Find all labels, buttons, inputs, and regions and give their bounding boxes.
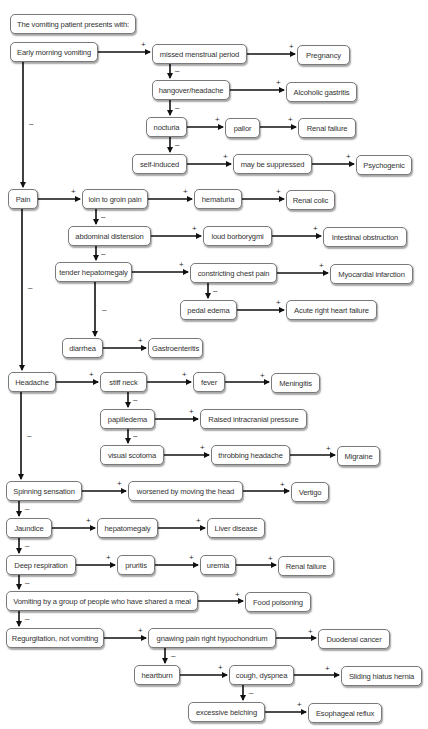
- node-cough-dyspnea: cough, dyspnea: [229, 665, 294, 685]
- node-missed-menstrual-period: missed menstrual period: [152, 44, 247, 64]
- plus-sign: +: [319, 262, 324, 270]
- vomiting-flowchart: The vomiting patient presents with: Earl…: [0, 0, 428, 729]
- plus-sign: +: [276, 79, 281, 87]
- minus-sign: –: [102, 306, 106, 314]
- node-vertigo: Vertigo: [291, 482, 329, 502]
- node-uremia: uremia: [200, 555, 236, 575]
- node-renal-colic: Renal colic: [286, 190, 335, 210]
- plus-sign: +: [179, 261, 184, 269]
- minus-sign: –: [133, 396, 137, 404]
- node-group-vomiting: Vomiting by a group of people who have s…: [6, 591, 198, 611]
- node-tender-hepatomegaly: tender hepatomegaly: [55, 262, 132, 282]
- node-intestinal-obstruction: Intestinal obstruction: [323, 227, 407, 247]
- plus-sign: +: [89, 371, 94, 379]
- node-spinning-sensation: Spinning sensation: [6, 481, 82, 501]
- node-hematuria: hematuria: [194, 189, 242, 209]
- node-psychogenic: Psychogenic: [356, 155, 412, 175]
- node-raised-intracranial-pressure: Raised intracranial pressure: [200, 409, 307, 429]
- node-renal-failure-1: Renal failure: [298, 118, 356, 138]
- node-self-induced: self-induced: [132, 154, 187, 174]
- node-loin-to-groin-pain: loin to groin pain: [82, 189, 148, 209]
- minus-sign: –: [25, 542, 29, 550]
- plus-sign: +: [223, 153, 228, 161]
- minus-sign: –: [175, 141, 179, 149]
- node-early-morning-vomiting: Early morning vomiting: [10, 42, 98, 62]
- minus-sign: –: [25, 579, 29, 587]
- plus-sign: +: [189, 554, 194, 562]
- minus-sign: –: [175, 104, 179, 112]
- node-gnawing-pain: gnawing pain right hypochondrium: [148, 628, 276, 648]
- node-headache: Headache: [8, 372, 56, 392]
- minus-sign: –: [101, 213, 105, 221]
- plus-sign: +: [182, 371, 187, 379]
- plus-sign: +: [200, 444, 205, 452]
- plus-sign: +: [196, 517, 201, 525]
- node-may-be-suppressed: may be suppressed: [233, 154, 312, 174]
- node-constricting-chest-pain: constricting chest pain: [190, 263, 277, 283]
- node-throbbing-headache: throbbing headache: [211, 445, 290, 465]
- plus-sign: +: [218, 664, 223, 672]
- node-pallor: pallor: [225, 118, 260, 138]
- plus-sign: +: [276, 188, 281, 196]
- plus-sign: +: [138, 337, 143, 345]
- plus-sign: +: [288, 116, 293, 124]
- node-sliding-hiatus-hernia: Sliding hiatus hernia: [341, 666, 422, 686]
- node-deep-respiration: Deep respiration: [6, 555, 76, 575]
- plus-sign: +: [215, 116, 220, 124]
- plus-sign: +: [276, 299, 281, 307]
- plus-sign: +: [71, 188, 76, 196]
- node-acute-right-heart-failure: Acute right heart failure: [286, 300, 377, 320]
- node-gastroenteritis: Gastroenteritis: [148, 338, 203, 358]
- minus-sign: –: [28, 284, 32, 292]
- node-nocturia: nocturia: [146, 117, 187, 137]
- plus-sign: +: [289, 43, 294, 51]
- connector-lines: [0, 0, 428, 729]
- plus-sign: +: [235, 591, 240, 599]
- plus-sign: +: [86, 517, 91, 525]
- node-migraine: Migraine: [337, 446, 380, 466]
- node-food-poisoning: Food poisoning: [245, 592, 311, 612]
- plus-sign: +: [346, 153, 351, 161]
- node-stiff-neck: stiff neck: [100, 372, 147, 392]
- minus-sign: –: [29, 120, 33, 128]
- diagram-title: The vomiting patient presents with:: [10, 14, 136, 34]
- node-papilledema: papilledema: [100, 409, 155, 429]
- plus-sign: +: [141, 41, 146, 49]
- node-esophageal-reflux: Esophageal reflux: [308, 703, 382, 723]
- node-hangover-headache: hangover/headache: [152, 80, 230, 100]
- node-pedal-edema: pedal edema: [180, 300, 237, 320]
- plus-sign: +: [297, 701, 302, 709]
- minus-sign: –: [25, 615, 29, 623]
- minus-sign: –: [175, 67, 179, 75]
- plus-sign: +: [138, 627, 143, 635]
- minus-sign: –: [171, 652, 175, 660]
- node-regurgitation: Regurgitation, not vomiting: [6, 628, 104, 648]
- plus-sign: +: [117, 480, 122, 488]
- node-renal-failure-2: Renal failure: [278, 556, 334, 576]
- node-alcoholic-gastritis: Alcoholic gastritis: [286, 82, 357, 102]
- plus-sign: +: [308, 628, 313, 636]
- node-duodenal-cancer: Duodenal cancer: [318, 629, 390, 649]
- node-pain: Pain: [8, 189, 38, 209]
- node-hepatomegaly: hepatomegaly: [97, 518, 158, 538]
- node-jaundice: Jaundice: [6, 518, 52, 538]
- minus-sign: –: [27, 432, 31, 440]
- plus-sign: +: [106, 554, 111, 562]
- plus-sign: +: [268, 555, 273, 563]
- plus-sign: +: [189, 408, 194, 416]
- minus-sign: –: [25, 505, 29, 513]
- minus-sign: –: [133, 432, 137, 440]
- minus-sign: –: [249, 689, 253, 697]
- plus-sign: +: [183, 188, 188, 196]
- node-pruritis: pruritis: [117, 555, 155, 575]
- node-loud-borborygmi: loud borborygmi: [203, 226, 272, 246]
- node-fever: fever: [193, 372, 225, 392]
- minus-sign: –: [101, 250, 105, 258]
- node-diarrhea: diarrhea: [62, 338, 103, 358]
- plus-sign: +: [192, 225, 197, 233]
- node-heartburn: heartburn: [134, 665, 180, 685]
- plus-sign: +: [325, 665, 330, 673]
- node-meningitis: Meningitis: [271, 373, 320, 393]
- node-worsened-by-moving-head: worsened by moving the head: [128, 481, 243, 501]
- node-myocardial-infarction: Myocardial infarction: [330, 264, 413, 284]
